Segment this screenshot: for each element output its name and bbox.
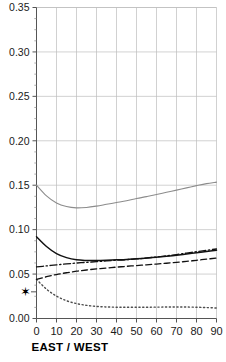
x-axis-tick-label: 0 (33, 325, 39, 337)
y-axis-tick-label: 0.10 (9, 223, 30, 235)
x-axis-tick-label: 40 (110, 325, 122, 337)
x-axis-title: EAST / WEST (32, 341, 109, 353)
x-axis-tick-label: 80 (190, 325, 202, 337)
plot-area (37, 8, 217, 319)
y-axis-tick-label: 0.20 (9, 135, 30, 147)
x-axis-tick-label: 70 (170, 325, 182, 337)
line-chart-plot: 0.000.050.100.150.200.250.300.3501020304… (0, 0, 226, 362)
y-axis-tick-label: 0.35 (9, 1, 30, 13)
x-axis-tick-label: 60 (150, 325, 162, 337)
x-axis-tick-label: 30 (90, 325, 102, 337)
y-axis-tick-label: 0.15 (9, 179, 30, 191)
y-axis-tick-label: 0.05 (9, 268, 30, 280)
y-axis-tick-label: 0.30 (9, 46, 30, 58)
x-axis-tick-label: 10 (50, 325, 62, 337)
y-axis-tick-label: 0.00 (9, 312, 30, 324)
y-axis-tick-label: 0.25 (9, 90, 30, 102)
chart-container: 0.000.050.100.150.200.250.300.3501020304… (0, 0, 226, 362)
star-marker-icon: ✶ (20, 284, 30, 299)
x-axis-tick-label: 90 (210, 325, 222, 337)
x-axis-tick-label: 20 (70, 325, 82, 337)
x-axis-tick-label: 50 (130, 325, 142, 337)
